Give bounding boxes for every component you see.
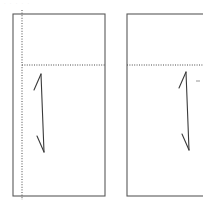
left-panel-group (13, 10, 105, 200)
left-panel-outline (13, 14, 105, 196)
right-panel-outline (127, 14, 203, 196)
drawing-canvas (0, 0, 203, 211)
right-panel-group (127, 14, 203, 196)
